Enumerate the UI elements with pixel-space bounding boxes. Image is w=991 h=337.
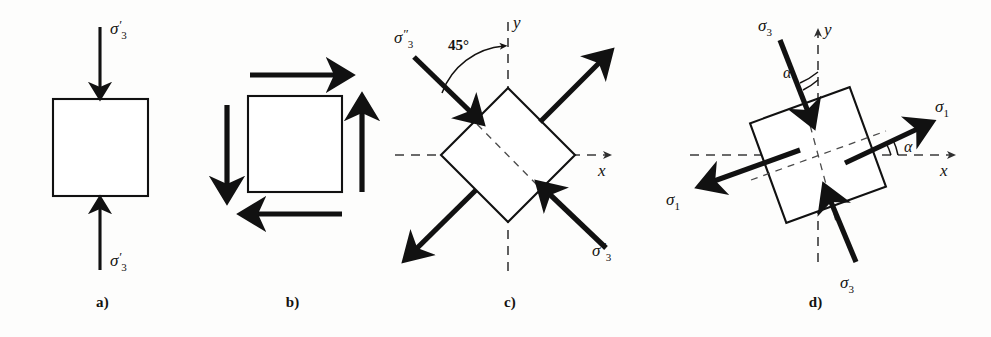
y-axis-label-c: y: [511, 13, 521, 32]
upper-left-stress-label-c: σ″3: [394, 26, 414, 50]
stress-element-figure: σ′3 σ′3 a) b): [0, 0, 991, 337]
panel-c-caption: c): [380, 294, 640, 311]
x-axis-label-c: x: [597, 161, 606, 180]
angle-label-top-d: α: [783, 64, 792, 81]
lower-left-tension-arrow: [408, 190, 476, 257]
bottom-stress-label-a: σ′3: [110, 249, 127, 273]
y-axis-label-d: y: [822, 20, 832, 39]
upper-right-tension-arrow: [540, 54, 608, 122]
panel-d-caption: d): [640, 294, 991, 311]
upper-left-compression-arrow: [414, 57, 479, 120]
top-stress-label-d: σ3: [758, 16, 772, 38]
top-stress-label-a: σ′3: [110, 17, 127, 41]
panel-d: α α y x σ3 σ3 σ1 σ1 d): [640, 0, 991, 337]
right-stress-label-d: σ1: [935, 97, 949, 119]
angle-arc-right-d: [893, 140, 898, 155]
left-stress-label-d: σ1: [666, 190, 680, 212]
x-axis-label-d: x: [939, 161, 948, 180]
angle-arc-top-d: [803, 80, 818, 90]
panel-a-caption: a): [0, 294, 205, 311]
panel-c-diagram: 45° y x σ″3 σ″3: [380, 0, 640, 300]
element-square-b: [248, 96, 342, 192]
panel-c: 45° y x σ″3 σ″3 c): [380, 0, 640, 337]
element-square-a: [53, 99, 148, 196]
angle-label-c: 45°: [448, 37, 469, 53]
panel-a-diagram: σ′3 σ′3: [0, 0, 205, 300]
angle-label-right-d: α: [904, 138, 913, 155]
panel-d-diagram: α α y x σ3 σ3 σ1 σ1: [640, 0, 991, 300]
bottom-stress-label-d: σ3: [840, 273, 854, 295]
lower-right-stress-label-c: σ″3: [592, 239, 612, 263]
lower-right-compression-arrow: [541, 186, 606, 248]
panel-b: b): [205, 0, 380, 337]
panel-b-diagram: [205, 0, 380, 300]
panel-a: σ′3 σ′3 a): [0, 0, 205, 337]
angle-arc-c: [442, 46, 504, 93]
panel-b-caption: b): [205, 294, 380, 311]
